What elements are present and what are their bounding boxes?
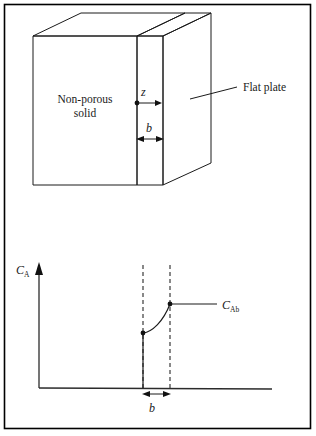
b-arrow-head-left-plot	[142, 391, 150, 397]
concentration-plot: CA CAb b	[16, 262, 272, 415]
b-dimension-indicator-plot: b	[142, 391, 171, 415]
flat-plate-label: Flat plate	[243, 81, 286, 94]
figure-container: z b Non-porous solid Flat plate	[0, 0, 316, 436]
figure-border	[5, 5, 311, 429]
x-axis-line	[39, 388, 272, 389]
flat-plate-leader-line	[190, 87, 237, 99]
y-axis-label-sub: A	[24, 270, 30, 279]
bulk-concentration-dot	[168, 302, 173, 307]
y-axis-label: CA	[16, 263, 30, 279]
b-arrow-head-right-plot	[163, 391, 171, 397]
block-top-face-left	[33, 13, 185, 36]
bulk-concentration-label: CAb	[222, 298, 239, 314]
block-slab-face	[137, 36, 163, 185]
non-porous-solid-line2: solid	[74, 107, 97, 119]
z-label: z	[140, 85, 146, 99]
z-arrow-head	[155, 100, 162, 106]
non-porous-solid-line1: Non-porous	[58, 93, 113, 106]
flat-plate-callout: Flat plate	[190, 81, 286, 99]
surface-concentration-dot	[141, 331, 146, 336]
bulk-concentration-label-sub: Ab	[230, 305, 239, 314]
y-axis-arrow-head	[35, 262, 43, 275]
concentration-profile-curve	[143, 304, 170, 333]
block-right-face	[163, 13, 211, 185]
z-dimension-indicator: z	[135, 85, 162, 106]
non-porous-solid-label: Non-porous solid	[58, 93, 113, 119]
b-label-block: b	[146, 121, 152, 135]
b-dimension-indicator-block: b	[136, 121, 164, 142]
figure-canvas: z b Non-porous solid Flat plate	[0, 0, 316, 436]
b-label-plot: b	[149, 401, 155, 415]
block-top-face-slab	[137, 13, 211, 36]
